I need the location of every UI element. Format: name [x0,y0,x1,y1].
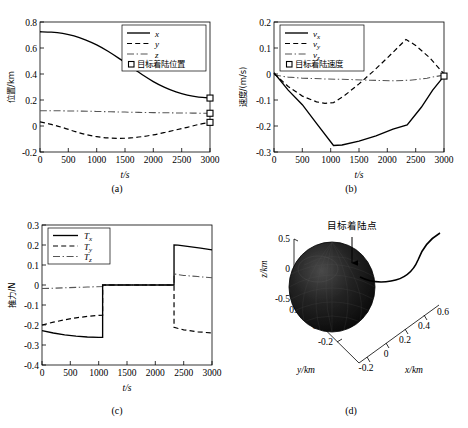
ytick-d-0: -0.2 [318,337,333,347]
caption-c: (c) [0,405,234,416]
x-axis-ticks-a: 0 500 1000 1500 2000 2500 3000 [38,148,220,165]
target-landing-velocity-markers [441,73,447,79]
xtick-d-4: 0.6 [437,307,449,317]
ztick-d-0: -0.5 [275,294,290,304]
ytick-b-5: 0.2 [259,18,271,28]
caption-b: (b) [234,183,468,194]
panel-c-svg: 0 500 1000 1500 2000 2500 3000 -0.4 -0.3… [0,205,234,428]
target-landing-position-marker [207,110,213,116]
ytick-c-7: 0.3 [27,221,39,231]
y-axis-ticks-c: -0.4 -0.3 -0.2 -0.1 0 0.1 0.2 0.3 [24,221,46,371]
xtick-a-5: 2500 [172,155,191,165]
series-y-curve-a [40,122,210,139]
series-Ty-curve-c [42,285,212,333]
xtick-d-2: 0.2 [399,335,411,345]
ytick-c-0: -0.4 [24,361,39,371]
panel-d: 0.5 0 -0.5 0.2 0 -0.2 -0.2 0 0.2 0.4 0.6 [234,205,468,428]
target-landing-position-marker [207,95,213,101]
legend-a-label-3: 目标着陆位置 [137,59,185,69]
y-axis-ticks-b: -0.3 -0.2 -0.1 0 0.1 0.2 [256,18,278,158]
target-landing-position-markers [207,95,213,125]
landing-point-annotation: 目标着陆点 [327,220,377,231]
xtick-d-1: 0 [384,349,389,359]
xtick-b-2: 1000 [321,155,340,165]
caption-d: (d) [234,405,468,416]
legend-a-label-2: z [154,50,159,60]
ytick-a-2: 0.2 [25,96,37,106]
xtick-a-0: 0 [38,155,43,165]
zaxis-label-d: z/km [259,260,269,279]
xtick-a-4: 2000 [144,155,163,165]
x-axis-ticks-c: 0 500 1000 1500 2000 2500 3000 [40,361,222,378]
ytick-c-1: -0.3 [24,341,39,351]
xtick-b-4: 2000 [378,155,397,165]
xtick-a-2: 1000 [87,155,106,165]
xtick-d-0: -0.2 [358,363,373,373]
ytick-c-6: 0.2 [27,241,39,251]
panel-b-svg: 0 500 1000 1500 2000 2500 3000 -0.3 -0.2… [234,0,468,200]
yaxis-label-c: 推力/N [7,282,17,307]
panel-d-svg: 0.5 0 -0.5 0.2 0 -0.2 -0.2 0 0.2 0.4 0.6 [234,205,468,428]
ytick-b-1: -0.2 [256,122,271,132]
ytick-c-5: 0.1 [27,261,39,271]
panel-a: 0 500 1000 1500 2000 2500 3000 -0.2 0 0.… [0,0,234,200]
ytick-c-2: -0.2 [24,321,39,331]
xtick-b-6: 3000 [435,155,454,165]
ytick-b-0: -0.3 [256,148,271,158]
series-Tz-curve-c [42,274,212,289]
target-landing-velocity-marker [441,73,447,79]
xtick-c-6: 3000 [203,368,222,378]
panel-a-svg: 0 500 1000 1500 2000 2500 3000 -0.2 0 0.… [0,0,234,200]
xtick-c-4: 2000 [146,368,165,378]
xtick-c-1: 500 [63,368,78,378]
yaxis-label-a: 位置/km [6,71,16,103]
target-landing-position-marker [207,119,213,125]
asteroid-body [289,242,375,332]
ytick-b-3: 0 [266,70,271,80]
x-axis-line [359,305,439,363]
xtick-b-3: 1500 [350,155,369,165]
ztick-d-1: 0 [285,264,290,274]
xaxis-label-a: t/s [121,170,130,180]
ytick-b-2: -0.1 [256,96,271,106]
ytick-a-3: 0.4 [25,70,37,80]
xtick-a-3: 1500 [116,155,135,165]
xtick-b-0: 0 [272,155,277,165]
panel-c: 0 500 1000 1500 2000 2500 3000 -0.4 -0.3… [0,205,234,428]
legend-c: Tx Ty Tz [48,228,110,264]
ytick-a-0: -0.2 [22,148,37,158]
legend-a-label-0: x [154,29,159,39]
xtick-c-2: 1000 [89,368,108,378]
ytick-a-1: 0 [32,122,37,132]
xaxis-label-c: t/s [123,383,132,393]
ztick-d-2: 0.5 [278,234,290,244]
legend-b: vx vy vz 目标着陆速度 [280,25,364,71]
xtick-d-3: 0.4 [418,321,430,331]
x-axis-ticks-b: 0 500 1000 1500 2000 2500 3000 [272,148,454,165]
xtick-c-5: 2500 [174,368,193,378]
legend-a-label-1: y [154,39,159,49]
xaxis-label-b: t/s [355,170,364,180]
y-axis-ticks-a: -0.2 0 0.2 0.4 0.6 0.8 [22,18,44,158]
caption-a: (a) [0,183,234,194]
xtick-c-0: 0 [40,368,45,378]
yaxis-label-b: 速度/(m/s) [238,67,248,108]
series-vz-curve-b [274,75,444,81]
series-z-curve-a [40,111,210,114]
ytick-a-4: 0.6 [25,44,37,54]
xtick-b-1: 500 [295,155,310,165]
xaxis-label-d: x/km [404,365,423,375]
ytick-c-4: 0 [34,281,39,291]
xtick-b-5: 2500 [406,155,425,165]
panel-b: 0 500 1000 1500 2000 2500 3000 -0.3 -0.2… [234,0,468,200]
ytick-c-3: -0.1 [24,301,39,311]
xtick-a-6: 3000 [201,155,220,165]
legend-b-label-3: 目标着陆速度 [295,59,344,69]
xtick-a-1: 500 [61,155,76,165]
xtick-c-3: 1500 [118,368,137,378]
legend-a: x y z 目标着陆位置 [122,25,206,71]
yaxis-label-d: y/km [296,365,315,375]
ytick-a-5: 0.8 [25,18,37,28]
ytick-b-4: 0.1 [259,44,271,54]
